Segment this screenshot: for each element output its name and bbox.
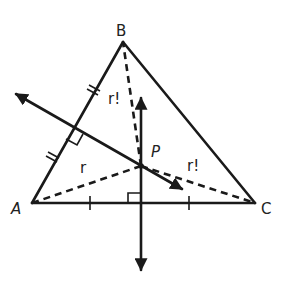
label-a: A <box>10 200 21 218</box>
perpendicular-bisector-ab <box>16 94 182 189</box>
label-r-pa: r <box>80 159 87 177</box>
label-c: C <box>261 200 271 218</box>
side-ab <box>32 42 123 203</box>
label-r-pc: r! <box>187 157 199 175</box>
right-angle-mark-ac <box>128 193 141 203</box>
right-angle-mark-ab <box>66 134 83 145</box>
geometry-diagram: B A C P r r! r! <box>0 0 297 298</box>
label-b: B <box>116 22 126 40</box>
label-p: P <box>151 143 161 161</box>
label-r-pb: r! <box>108 90 120 108</box>
side-bc <box>123 42 255 203</box>
point-p <box>138 163 144 169</box>
